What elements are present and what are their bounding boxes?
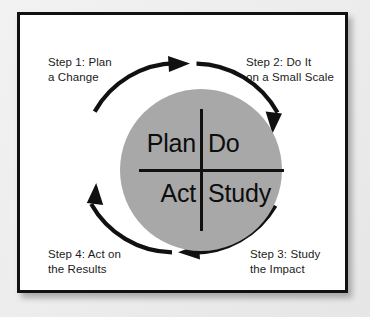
quadrant-label-act: Act [124,181,196,206]
diagram-panel: Step 1: Plan a Change Step 2: Do It on a… [17,12,348,293]
quadrant-label-do: Do [208,131,278,156]
pdsa-circle: Plan Do Act Study [120,89,282,251]
step-4-label: Step 4: Act on the Results [48,247,173,276]
step-2-label: Step 2: Do It on a Small Scale [246,55,370,84]
quadrant-label-study: Study [208,181,284,206]
step-1-label: Step 1: Plan a Change [48,55,168,84]
diagram-stage: Step 1: Plan a Change Step 2: Do It on a… [0,0,370,317]
pdsa-cycle-diagram: Step 1: Plan a Change Step 2: Do It on a… [20,15,345,290]
quadrant-label-plan: Plan [124,131,196,156]
step-3-label: Step 3: Study the Impact [250,247,370,276]
quadrant-divider-horizontal [139,169,284,172]
